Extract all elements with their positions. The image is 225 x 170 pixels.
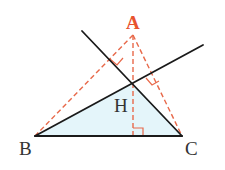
label-h: H bbox=[114, 95, 128, 116]
triangle-bhc-fill bbox=[35, 83, 182, 136]
label-b: B bbox=[19, 138, 32, 159]
right-angle-marker-ac bbox=[146, 78, 159, 85]
label-c: C bbox=[185, 138, 198, 159]
label-a: A bbox=[126, 12, 140, 33]
orthocenter-diagram: A H B C bbox=[0, 0, 225, 170]
